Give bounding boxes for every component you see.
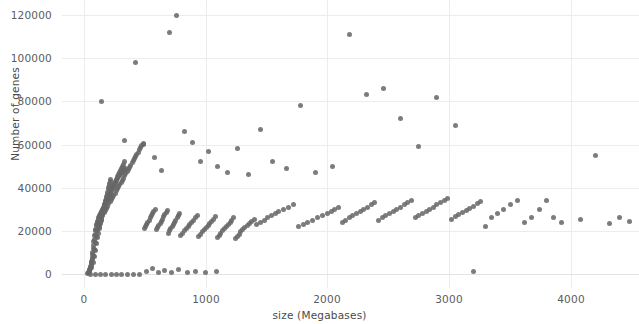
scatter-point [347, 32, 352, 37]
scatter-point [522, 220, 527, 225]
scatter-point [215, 164, 220, 169]
scatter-point [122, 159, 127, 164]
gridline-vertical [571, 0, 572, 288]
gridline-horizontal [62, 231, 639, 232]
y-tick-label: 0 [45, 268, 52, 280]
scatter-point [501, 207, 506, 212]
scatter-point [381, 86, 386, 91]
gridline-vertical [206, 0, 207, 288]
scatter-point [291, 202, 296, 207]
scatter-point [544, 198, 549, 203]
scatter-point [372, 200, 377, 205]
scatter-point [231, 215, 236, 220]
scatter-point [190, 140, 195, 145]
scatter-point [551, 215, 556, 220]
scatter-point [213, 214, 218, 219]
y-axis-tick-labels: 020000400006000080000100000120000 [0, 0, 58, 288]
scatter-point [270, 159, 275, 164]
y-tick-label: 60000 [18, 139, 52, 151]
y-tick-label: 40000 [18, 182, 52, 194]
gridline-horizontal [62, 58, 639, 59]
scatter-point [296, 224, 301, 229]
scatter-point [313, 170, 318, 175]
scatter-point [103, 272, 108, 277]
scatter-point [252, 217, 257, 222]
scatter-point [99, 99, 104, 104]
scatter-point [364, 92, 369, 97]
gridline-horizontal [62, 15, 639, 16]
scatter-point [607, 221, 612, 226]
scatter-point [182, 129, 187, 134]
scatter-point [336, 205, 341, 210]
scatter-point [495, 211, 500, 216]
x-axis-baseline [62, 274, 639, 275]
scatter-point [159, 168, 164, 173]
scatter-point [489, 215, 494, 220]
scatter-point [627, 219, 632, 224]
scatter-point [90, 257, 95, 262]
scatter-point [91, 253, 96, 258]
scatter-point [137, 272, 142, 277]
y-tick-label: 120000 [11, 9, 52, 21]
gridline-vertical [84, 0, 85, 288]
scatter-point [508, 202, 513, 207]
scatter-point [478, 199, 483, 204]
scatter-point [153, 207, 158, 212]
scatter-point [398, 116, 403, 121]
scatter-point [225, 170, 230, 175]
scatter-point [235, 146, 240, 151]
scatter-point [167, 30, 172, 35]
scatter-point [109, 272, 114, 277]
gridline-horizontal [62, 188, 639, 189]
scatter-point [174, 13, 179, 18]
scatter-point [141, 142, 146, 147]
scatter-point [169, 270, 174, 275]
gridline-vertical [327, 0, 328, 288]
x-tick-label: 2000 [313, 293, 341, 305]
x-tick-label: 1000 [192, 293, 220, 305]
scatter-point [416, 144, 421, 149]
scatter-point [177, 211, 182, 216]
x-axis-tick-labels: 01000200030004000 [62, 293, 639, 309]
x-tick-label: 4000 [557, 293, 585, 305]
scatter-point [434, 95, 439, 100]
scatter-point [92, 247, 97, 252]
y-tick-label: 100000 [11, 52, 52, 64]
scatter-point [515, 198, 520, 203]
y-tick-label: 20000 [18, 225, 52, 237]
plot-area [62, 0, 639, 288]
scatter-point [150, 266, 155, 271]
scatter-point [193, 269, 198, 274]
scatter-point [133, 60, 138, 65]
scatter-point [578, 217, 583, 222]
scatter-point [286, 205, 291, 210]
scatter-point [122, 138, 127, 143]
scatter-point [144, 269, 149, 274]
scatter-point [195, 213, 200, 218]
scatter-point [617, 215, 622, 220]
x-tick-label: 3000 [435, 293, 463, 305]
scatter-point [529, 215, 534, 220]
scatter-point [176, 267, 181, 272]
scatter-point [152, 155, 157, 160]
scatter-point [284, 166, 289, 171]
scatter-point [409, 198, 414, 203]
x-axis-title: size (Megabases) [0, 309, 639, 321]
scatter-point [119, 272, 124, 277]
scatter-point [94, 234, 99, 239]
y-tick-label: 80000 [18, 95, 52, 107]
scatter-point [185, 270, 190, 275]
scatter-point [453, 123, 458, 128]
scatter-point [483, 224, 488, 229]
scatter-point [593, 153, 598, 158]
gridline-vertical [449, 0, 450, 288]
scatter-point [125, 272, 130, 277]
scatter-point [206, 149, 211, 154]
scatter-point [198, 159, 203, 164]
scatter-point [559, 220, 564, 225]
x-tick-label: 0 [81, 293, 88, 305]
scatter-point [298, 103, 303, 108]
gridline-horizontal [62, 101, 639, 102]
scatter-point [131, 272, 136, 277]
scatter-point [156, 270, 161, 275]
